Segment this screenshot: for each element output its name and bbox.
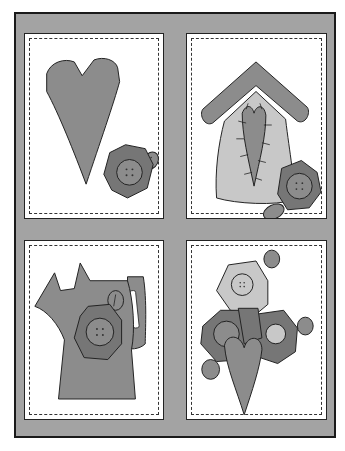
watering-can-illustration: [25, 241, 163, 419]
panel-birdhouse: [186, 33, 327, 219]
heart-shape: [224, 337, 261, 415]
panel-watering-can: [24, 240, 164, 420]
small-oval-button: [264, 250, 280, 268]
panel-button-cluster: [186, 240, 327, 420]
round-button: [86, 318, 114, 346]
round-button-light-small: [266, 324, 286, 344]
artwork-frame: [14, 12, 336, 438]
button-cluster-illustration: [187, 241, 326, 419]
panel-heart: [24, 33, 164, 219]
round-button: [287, 173, 313, 199]
round-button-light: [231, 274, 253, 296]
heart-button-illustration: [25, 34, 163, 218]
small-oval-button: [297, 317, 313, 335]
round-button: [117, 160, 143, 186]
small-oval-button: [202, 360, 220, 380]
birdhouse-illustration: [187, 34, 326, 218]
